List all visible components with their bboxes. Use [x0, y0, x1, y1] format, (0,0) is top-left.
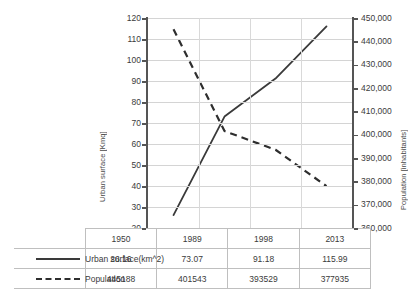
right-tick-mark — [354, 228, 358, 230]
table-row: Population445188401543393529377935 — [14, 269, 371, 289]
table-header-cell: 1950 — [85, 229, 156, 249]
legend-entry[interactable]: Urban surface(km^2) — [14, 249, 85, 269]
right-tick-label: 380,000 — [361, 177, 401, 186]
right-tick-mark — [354, 135, 358, 137]
left-tick-label: 30 — [108, 203, 141, 212]
table-header-cell: 1989 — [157, 229, 228, 249]
table-cell: 393529 — [228, 269, 299, 289]
data-table: 1950198919982013Urban surface(km^2)26.16… — [14, 228, 371, 289]
solid-line-swatch — [36, 258, 80, 260]
left-tick-mark — [142, 18, 146, 20]
category-gridline — [301, 18, 302, 228]
right-tick-mark — [354, 158, 358, 160]
right-tick-label: 370,000 — [361, 200, 401, 209]
right-tick-label: 420,000 — [361, 84, 401, 93]
left-tick-label: 70 — [108, 119, 141, 128]
category-gridline — [199, 18, 200, 228]
left-tick-mark — [142, 144, 146, 146]
legend-label: Population — [85, 274, 125, 284]
right-axis-tick-labels: 450,000440,000430,000420,000410,000400,0… — [361, 18, 401, 228]
right-tick-mark — [354, 181, 358, 183]
right-tick-label: 440,000 — [361, 37, 401, 46]
table-header-cell: 2013 — [299, 229, 370, 249]
category-gridline — [250, 18, 251, 228]
right-tick-mark — [354, 41, 358, 43]
dashed-line-swatch — [36, 278, 80, 280]
left-tick-mark — [142, 207, 146, 209]
left-tick-mark — [142, 123, 146, 125]
legend-label: Urban surface(km^2) — [85, 254, 164, 264]
left-tick-mark — [142, 81, 146, 83]
left-tick-label: 110 — [108, 35, 141, 44]
table-corner-cell — [14, 229, 85, 249]
left-tick-mark — [142, 102, 146, 104]
left-axis-title: Urban surface [Kmq] — [98, 72, 107, 202]
right-tick-mark — [354, 18, 358, 20]
right-axis-spine — [352, 17, 354, 229]
left-tick-label: 50 — [108, 161, 141, 170]
left-tick-label: 80 — [108, 98, 141, 107]
left-tick-label: 60 — [108, 140, 141, 149]
plot-area — [148, 18, 352, 228]
left-tick-mark — [142, 228, 146, 230]
table-cell: 73.07 — [157, 249, 228, 269]
table-header-cell: 1998 — [228, 229, 299, 249]
right-tick-label: 410,000 — [361, 107, 401, 116]
left-tick-label: 40 — [108, 182, 141, 191]
right-tick-label: 430,000 — [361, 60, 401, 69]
chart-figure: Urban surface [Kmq] Population [inhabita… — [0, 0, 420, 293]
left-tick-label: 100 — [108, 56, 141, 65]
left-tick-label: 90 — [108, 77, 141, 86]
right-tick-mark — [354, 205, 358, 207]
left-tick-mark — [142, 60, 146, 62]
legend-entry[interactable]: Population — [14, 269, 85, 289]
table-row: Urban surface(km^2)26.1673.0791.18115.99 — [14, 249, 371, 269]
right-tick-label: 450,000 — [361, 14, 401, 23]
left-tick-label: 120 — [108, 14, 141, 23]
table-header-row: 1950198919982013 — [14, 229, 371, 249]
table-cell: 115.99 — [299, 249, 370, 269]
left-tick-mark — [142, 165, 146, 167]
left-axis-tick-labels: 1201101009080706050403020 — [108, 18, 141, 228]
right-tick-mark — [354, 65, 358, 67]
right-tick-mark — [354, 111, 358, 113]
right-tick-label: 390,000 — [361, 154, 401, 163]
left-tick-mark — [142, 39, 146, 41]
table-cell: 377935 — [299, 269, 370, 289]
table-cell: 91.18 — [228, 249, 299, 269]
right-tick-mark — [354, 88, 358, 90]
table-cell: 401543 — [157, 269, 228, 289]
left-tick-mark — [142, 186, 146, 188]
right-tick-label: 400,000 — [361, 130, 401, 139]
